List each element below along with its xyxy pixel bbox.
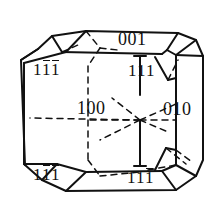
miller-digit: 1 xyxy=(77,98,87,117)
miller-digit: 1 xyxy=(51,165,60,183)
crystal-hidden-edge xyxy=(176,150,192,162)
crystal-edge xyxy=(176,55,203,56)
miller-index-lower-right: 111 xyxy=(127,168,154,186)
miller-digit: 1 xyxy=(173,99,183,118)
miller-digit: 1 xyxy=(146,61,155,79)
crystal-edge xyxy=(162,50,167,54)
crystal-hidden-edge xyxy=(86,31,100,48)
crystal-hidden-edge xyxy=(88,160,100,176)
crystal-edge xyxy=(62,52,162,54)
crystal-edge xyxy=(176,40,196,55)
crystal-edge xyxy=(162,171,176,190)
miller-digit: 1 xyxy=(137,61,146,79)
miller-digit: 1 xyxy=(51,60,60,78)
miller-digit: 1 xyxy=(42,60,51,78)
crystal-diagram: 001 111 111 100 010 111 111 xyxy=(0,0,222,205)
miller-index-001: 001 xyxy=(118,29,147,48)
crystal-hidden-edge xyxy=(30,118,140,120)
crystal-hidden-edge xyxy=(100,120,140,140)
crystal-edge xyxy=(57,164,86,172)
miller-index-lower-left: 111 xyxy=(33,165,60,183)
miller-digit: 0 xyxy=(182,99,192,118)
miller-index-upper-left: 111 xyxy=(33,60,60,78)
miller-digit: 0 xyxy=(118,29,128,48)
crystal-hidden-edge xyxy=(100,48,118,50)
crystal-edge xyxy=(167,50,176,55)
miller-digit: 1 xyxy=(127,168,136,186)
crystal-hidden-edge xyxy=(140,120,168,132)
crystal-edge xyxy=(21,49,38,60)
miller-digit: 0 xyxy=(128,29,138,48)
miller-index-010: 010 xyxy=(163,99,192,118)
miller-digit: 1 xyxy=(33,60,42,78)
miller-digit: 1 xyxy=(42,165,51,183)
miller-digit: 1 xyxy=(137,29,147,48)
miller-digit: 0 xyxy=(87,98,97,117)
crystal-edge xyxy=(52,36,62,52)
crystal-hidden-edge xyxy=(112,98,140,120)
crystal-hidden-edge xyxy=(88,48,100,66)
miller-digit: 1 xyxy=(33,165,42,183)
miller-digit: 0 xyxy=(96,98,106,117)
crystal-edge xyxy=(66,172,86,191)
miller-index-100: 100 xyxy=(77,98,106,117)
miller-digit: 1 xyxy=(136,168,145,186)
miller-digit: 0 xyxy=(163,99,173,118)
miller-index-upper-right: 111 xyxy=(128,61,155,79)
miller-digit: 1 xyxy=(145,168,154,186)
miller-digit: 1 xyxy=(128,61,137,79)
crystal-edge xyxy=(167,33,178,50)
crystal-edge xyxy=(176,165,196,176)
crystal-edge xyxy=(155,57,168,80)
